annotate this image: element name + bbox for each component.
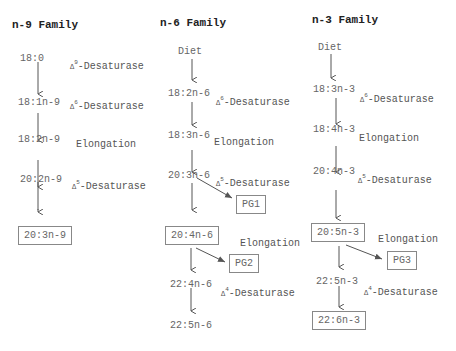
n6-node-18-2n-6: 18:2n-6	[168, 88, 210, 99]
n3-node-22-6n-3: 22:6n-3	[312, 311, 366, 330]
n6-node-20-4n-6: 20:4n-6	[165, 226, 219, 245]
n6-node-20-3n-6: 20:3n-6	[168, 170, 210, 181]
n6-step-elongation-1: Elongation	[214, 137, 274, 148]
n9-family-title: n-9 Family	[12, 19, 78, 31]
n3-node-18-4n-3: 18:4n-3	[313, 124, 355, 135]
n6-node-22-5n-6: 22:5n-6	[170, 320, 212, 331]
n3-step-delta6-desaturase: Δ6-Desaturase	[360, 92, 434, 105]
n3-step-delta4-desaturase: Δ4-Desaturase	[364, 285, 438, 298]
n3-node-diet: Diet	[318, 42, 342, 53]
n3-step-delta5-desaturase: Δ5-Desaturase	[358, 173, 432, 186]
n9-step-delta5-desaturase: Δ5-Desaturase	[72, 179, 146, 192]
n6-step-delta4-desaturase: Δ4-Desaturase	[221, 286, 295, 299]
n3-family-title: n-3 Family	[312, 14, 378, 26]
n9-node-18-1n-9: 18:1n-9	[18, 97, 60, 108]
n3-node-18-3n-3: 18:3n-3	[313, 84, 355, 95]
n3-node-20-4n-3: 20:4n-3	[313, 166, 355, 177]
n3-step-elongation-2: Elongation	[378, 234, 438, 245]
n9-node-18-0: 18:0	[20, 53, 44, 64]
n9-step-elongation: Elongation	[76, 139, 136, 150]
n9-step-delta6-desaturase: Δ6-Desaturase	[70, 99, 144, 112]
n3-step-elongation-1: Elongation	[359, 133, 419, 144]
n3-prostaglandin-pg3: PG3	[387, 251, 417, 270]
n6-step-delta6-desaturase: Δ6-Desaturase	[216, 95, 290, 108]
n3-node-20-5n-3: 20:5n-3	[311, 223, 365, 242]
n9-step-delta9-desaturase: Δ9-Desaturase	[70, 59, 144, 72]
n6-node-18-3n-6: 18:3n-6	[168, 130, 210, 141]
n3-node-22-5n-3: 22:5n-3	[316, 276, 358, 287]
n6-step-delta5-desaturase: Δ5-Desaturase	[216, 176, 290, 189]
n6-prostaglandin-pg2: PG2	[229, 254, 259, 273]
n6-family-title: n-6 Family	[160, 17, 226, 29]
n6-node-diet: Diet	[178, 46, 202, 57]
n6-step-elongation-2: Elongation	[240, 238, 300, 249]
n9-node-20-3n-9: 20:3n-9	[18, 226, 72, 245]
n9-node-18-2n-9: 18:2n-9	[18, 134, 60, 145]
n6-prostaglandin-pg1: PG1	[236, 195, 266, 214]
n6-node-22-4n-6: 22:4n-6	[170, 279, 212, 290]
n9-node-20-2n-9: 20:2n-9	[20, 174, 62, 185]
